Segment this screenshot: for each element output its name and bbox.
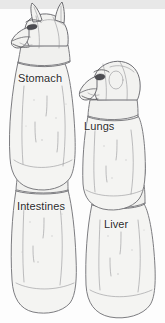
jackal-head-icon: [11, 2, 68, 48]
label-lungs: Lungs: [84, 120, 114, 132]
jar-hapi: [79, 61, 145, 210]
label-stomach: Stomach: [18, 72, 62, 84]
canopic-jars-illustration: Stomach Lungs Intestines Liver: [0, 0, 165, 323]
baboon-head-icon: [79, 61, 140, 100]
label-intestines: Intestines: [17, 200, 65, 212]
jackal-ear-left: [31, 3, 42, 22]
label-liver: Liver: [104, 218, 128, 230]
jar-duamutef: [9, 2, 75, 190]
jackal-ear-right: [55, 2, 64, 23]
jars-artwork: [0, 0, 165, 323]
